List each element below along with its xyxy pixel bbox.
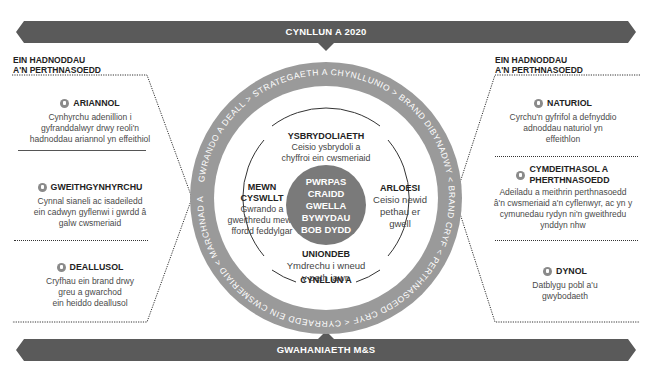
value-line: Ymdrechu i wneud bbox=[266, 260, 386, 272]
plan-label-text: CYNLLUN A bbox=[286, 275, 366, 286]
core-line: PWRPAS bbox=[286, 176, 366, 188]
value-line: gwell bbox=[365, 218, 435, 230]
core-line: BOB DYDD bbox=[286, 224, 366, 236]
value-title: YSBRYDOLIAETH bbox=[266, 131, 386, 142]
value-line: chyffroi ein cwsmeriaid bbox=[266, 153, 386, 164]
value-arloesi: ARLOESI Ceisio newid pethau er gwell bbox=[365, 182, 435, 230]
core-line: GWELLA bbox=[286, 200, 366, 212]
core-line: BYWYDAU bbox=[286, 212, 366, 224]
value-line: pethau er bbox=[365, 206, 435, 218]
plan-a-label: CYNLLUN A bbox=[286, 275, 366, 286]
value-ysbrydoliaeth: YSBRYDOLIAETH Ceisio ysbrydoli a chyffro… bbox=[266, 131, 386, 164]
core-purpose: PWRPAS CRAIDD GWELLA BYWYDAU BOB DYDD bbox=[286, 165, 366, 245]
value-title: UNIONDEB bbox=[266, 248, 386, 260]
value-line: Ceisio newid bbox=[365, 194, 435, 206]
value-line: Ceisio ysbrydoli a bbox=[266, 142, 386, 153]
value-title: ARLOESI bbox=[365, 182, 435, 194]
core-line: CRAIDD bbox=[286, 188, 366, 200]
